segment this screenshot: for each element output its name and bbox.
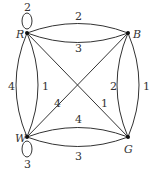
weight-r-w-right: 1 (42, 81, 49, 92)
vertex-label-g: G (124, 144, 133, 155)
graph-diagram: R B W G 2 2 3 4 1 1 4 2 1 4 3 3 (0, 0, 153, 171)
weight-w-g-upper: 4 (75, 114, 82, 125)
vertex-label-r: R (16, 29, 24, 40)
weight-r-b-lower: 3 (75, 43, 82, 54)
vertex-b (126, 31, 130, 35)
vertex-label-w: W (15, 133, 26, 144)
edge-r-w-right (27, 33, 38, 137)
edge-w-g-lower (27, 137, 128, 147)
vertex-r (25, 31, 29, 35)
edge-r-w-left (16, 33, 27, 137)
edge-w-g-upper (27, 128, 128, 138)
edge-r-b-upper (27, 24, 128, 34)
weight-r-w-left: 4 (8, 81, 15, 92)
edge-b-g-right (128, 33, 139, 137)
vertex-label-b: B (133, 29, 141, 40)
weight-r-b-upper: 2 (75, 11, 82, 22)
weight-r-loop: 2 (24, 2, 31, 13)
weight-b-g-right: 1 (143, 81, 150, 92)
weight-b-g-left: 2 (110, 81, 117, 92)
weight-b-w: 4 (54, 98, 61, 109)
vertex-g (126, 135, 130, 139)
weight-w-g-lower: 3 (75, 151, 82, 162)
weight-r-g: 1 (101, 98, 108, 109)
weight-w-loop: 3 (24, 159, 31, 170)
edge-b-g-left (117, 33, 128, 137)
edge-r-loop (22, 13, 32, 29)
